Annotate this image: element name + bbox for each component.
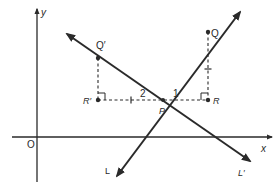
label-R-prime: R′ bbox=[83, 96, 91, 106]
line-L-prime-label: L′ bbox=[238, 168, 245, 178]
diagram-canvas: y x O Q Q′ R R′ P 2 1 L L′ bbox=[0, 0, 274, 187]
label-Q: Q bbox=[211, 28, 219, 39]
point-R-prime bbox=[96, 98, 100, 102]
labels: y x O Q Q′ R R′ P 2 1 L L′ bbox=[27, 7, 267, 178]
angle-label-2: 2 bbox=[140, 88, 146, 99]
lines bbox=[67, 12, 250, 176]
line-L-label: L bbox=[105, 166, 110, 176]
point-P bbox=[161, 98, 165, 102]
x-axis-label: x bbox=[260, 143, 267, 154]
angle-label-1: 1 bbox=[173, 88, 179, 99]
point-Q bbox=[206, 30, 210, 34]
point-Q-prime bbox=[96, 56, 100, 60]
label-R: R bbox=[213, 96, 220, 106]
point-R bbox=[206, 98, 210, 102]
origin-label: O bbox=[27, 139, 35, 150]
y-axis-label: y bbox=[40, 7, 47, 18]
line-L-prime bbox=[67, 34, 250, 161]
label-P: P bbox=[159, 106, 165, 116]
label-Q-prime: Q′ bbox=[96, 40, 106, 51]
